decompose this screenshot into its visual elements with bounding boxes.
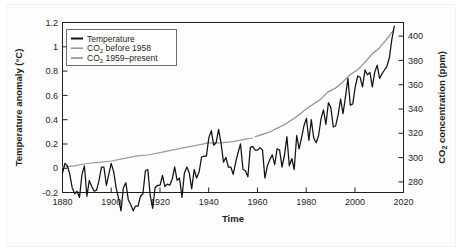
y-tick-label: 0 (53, 163, 58, 173)
y-axis-left-tick-labels: 1.2 1 0.8 0.6 0.4 0.2 0 -0.2 (42, 18, 58, 198)
legend-label-temperature: Temperature (87, 34, 135, 44)
chart-plot-area: 1.2 1 0.8 0.6 0.4 0.2 0 -0.2 400 380 360… (0, 0, 462, 251)
chart-figure: 1.2 1 0.8 0.6 0.4 0.2 0 -0.2 400 380 360… (0, 0, 462, 251)
y-tick-label: 0.2 (45, 139, 58, 149)
x-axis-ticks (63, 188, 404, 193)
series-co2-before-1958 (63, 138, 253, 167)
y2-axis-title: CO2 concentration (ppm) (436, 51, 448, 164)
y2-tick-label: 280 (408, 177, 423, 187)
y-axis-right-tick-labels: 400 380 360 340 320 300 280 (408, 31, 423, 187)
x-tick-label: 1880 (52, 197, 72, 207)
x-tick-label: 2000 (345, 197, 365, 207)
y2-tick-label: 320 (408, 128, 423, 138)
y2-tick-label: 400 (408, 31, 423, 41)
x-axis-title: Time (222, 213, 244, 224)
y-tick-label: 0.4 (45, 115, 58, 125)
y2-tick-label: 380 (408, 56, 423, 66)
y2-tick-label: 360 (408, 80, 423, 90)
y-tick-label: 1.2 (45, 18, 58, 28)
x-tick-label: 1960 (247, 197, 267, 207)
chart-legend: Temperature CO2 before 1958 CO2 1959–pre… (67, 30, 177, 66)
x-tick-label: 1940 (199, 197, 219, 207)
y-axis-title: Temperature anomaly (°C) (13, 49, 24, 167)
x-tick-label: 1980 (296, 197, 316, 207)
y2-tick-label: 340 (408, 104, 423, 114)
y-tick-label: 0.8 (45, 66, 58, 76)
y-axis-right-ticks (399, 36, 404, 182)
y-tick-label: 0.6 (45, 91, 58, 101)
y-tick-label: 1 (53, 42, 58, 52)
y2-tick-label: 300 (408, 153, 423, 163)
x-axis-tick-labels: 1880 1900 1920 1940 1960 1980 2000 2020 (52, 197, 413, 207)
legend-label-co2-1959-present: CO2 1959–present (87, 53, 158, 64)
x-tick-label: 2020 (393, 197, 413, 207)
